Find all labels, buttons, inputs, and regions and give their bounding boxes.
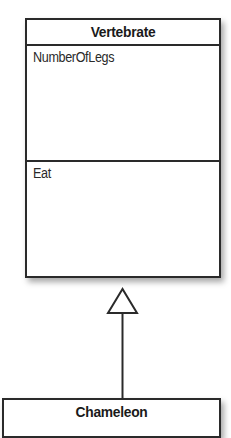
class-chameleon: Chameleon bbox=[2, 398, 221, 438]
hollow-triangle-arrowhead-icon bbox=[108, 289, 137, 313]
class-name-chameleon: Chameleon bbox=[13, 400, 211, 424]
